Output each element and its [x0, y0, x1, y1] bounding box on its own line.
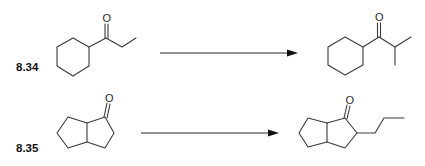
left-ring — [299, 118, 327, 147]
bond — [89, 38, 106, 47]
carbonyl-bond — [347, 106, 350, 119]
carbonyl-bond — [104, 103, 107, 117]
reaction-arrow-8-35 — [141, 130, 279, 137]
oxygen-atom: O — [105, 92, 114, 104]
reactant-8-35-structure: O — [57, 92, 114, 148]
left-ring — [57, 117, 87, 148]
ethyl-chain — [106, 38, 136, 47]
reaction-number-8-35: 8.35 — [16, 142, 39, 154]
reaction-number-8-34: 8.34 — [16, 61, 39, 73]
oxygen-atom: O — [346, 94, 355, 106]
reactant-8-34-structure: O — [57, 12, 136, 76]
product-8-35-structure: O — [299, 94, 404, 148]
right-ring — [87, 117, 114, 148]
cyclohexane-ring — [57, 38, 89, 76]
carbonyl-bond — [344, 105, 347, 118]
propyl-chain — [357, 118, 404, 133]
isopropyl-chain — [379, 37, 411, 47]
right-ring — [327, 118, 357, 148]
product-8-34-structure: O — [328, 11, 411, 75]
reaction-arrow-8-34 — [160, 50, 298, 57]
oxygen-atom: O — [375, 11, 384, 23]
carbonyl-bond — [107, 104, 110, 118]
bond — [363, 37, 379, 47]
cyclohexane-ring — [328, 37, 363, 75]
oxygen-atom: O — [103, 12, 112, 24]
reaction-scheme: 8.34 O O 8.35 O — [0, 0, 425, 166]
